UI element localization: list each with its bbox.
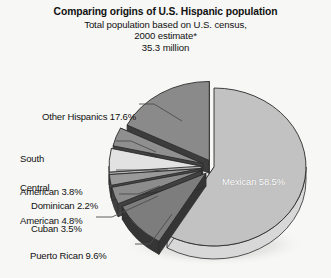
slice-label-other-hispanics: Other Hispanics 17.6% bbox=[32, 100, 136, 134]
slice-label-cuban-text: Cuban 3.5% bbox=[31, 223, 82, 234]
slice-label-puerto-rican-text: Puerto Rican 9.6% bbox=[30, 250, 107, 261]
pie-chart-figure: Comparing origins of U.S. Hispanic popul… bbox=[0, 0, 331, 278]
slice-label-mexican: Mexican 58.5% bbox=[222, 176, 285, 187]
slice-label-mexican-text: Mexican 58.5% bbox=[222, 176, 285, 187]
slice-label-dominican-text: Dominican 2.2% bbox=[31, 200, 98, 211]
slice-label-other-hispanics-text: Other Hispanics 17.6% bbox=[42, 111, 136, 122]
slice-label-puerto-rican: Puerto Rican 9.6% bbox=[20, 239, 107, 273]
